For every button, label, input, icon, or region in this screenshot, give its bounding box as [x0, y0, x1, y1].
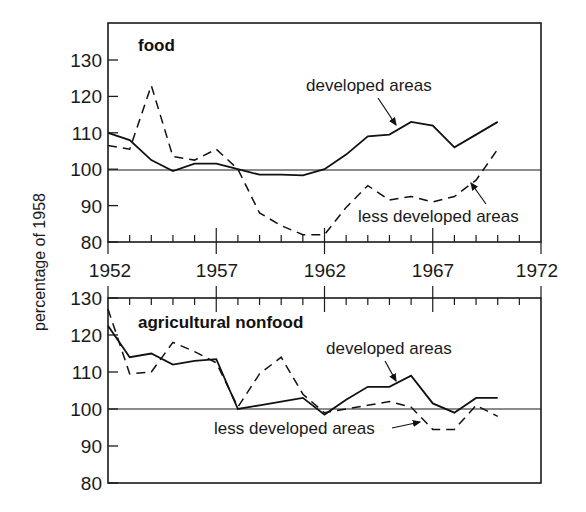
x-label-1962: 1962	[304, 260, 346, 281]
arrow-less-developed-food	[471, 183, 486, 204]
y-tick-label: 90	[81, 436, 102, 457]
y-ticks-nonfood: 8090100110120130	[70, 288, 118, 494]
y-tick-label: 80	[81, 232, 102, 253]
y-tick-label: 110	[72, 123, 102, 144]
panel-title-food: food	[138, 36, 175, 55]
panel-agricultural-nonfood: 8090100110120130 agricultural nonfood de…	[70, 286, 541, 494]
y-tick-label: 130	[70, 50, 102, 71]
y-tick-label: 100	[70, 159, 102, 180]
x-label-1957: 1957	[196, 260, 238, 281]
y-tick-label: 80	[81, 473, 102, 494]
annotation-developed-nonfood: developed areas	[326, 339, 452, 358]
panel-title-nonfood: agricultural nonfood	[138, 313, 303, 332]
x-label-1972: 1972	[516, 260, 558, 281]
chart-figure: percentage of 1958 8090100110120130 food…	[0, 0, 586, 512]
y-tick-label: 110	[72, 362, 102, 383]
annotation-developed-food: developed areas	[306, 76, 432, 95]
y-tick-label: 100	[70, 399, 102, 420]
arrow-developed-food	[378, 98, 396, 125]
y-axis-label: percentage of 1958	[31, 193, 48, 331]
y-ticks-food: 8090100110120130	[70, 50, 118, 253]
y-tick-label: 120	[70, 86, 102, 107]
y-tick-label: 130	[70, 288, 102, 309]
x-ticks-nonfood	[108, 286, 541, 312]
line-developed-food	[108, 122, 498, 175]
annotation-less-developed-nonfood: less developed areas	[214, 419, 375, 438]
arrow-less-developed-nonfood	[392, 422, 420, 428]
x-label-1952: 1952	[89, 260, 131, 281]
x-axis-labels: 1952 1957 1962 1967 1972	[89, 260, 558, 281]
arrow-developed-nonfood	[385, 361, 396, 381]
x-ticks-food	[108, 228, 541, 254]
y-tick-label: 120	[70, 325, 102, 346]
annotation-less-developed-food: less developed areas	[358, 207, 519, 226]
panel-food: 8090100110120130 food developed areas le…	[70, 23, 541, 254]
x-label-1967: 1967	[412, 260, 454, 281]
y-tick-label: 90	[81, 196, 102, 217]
